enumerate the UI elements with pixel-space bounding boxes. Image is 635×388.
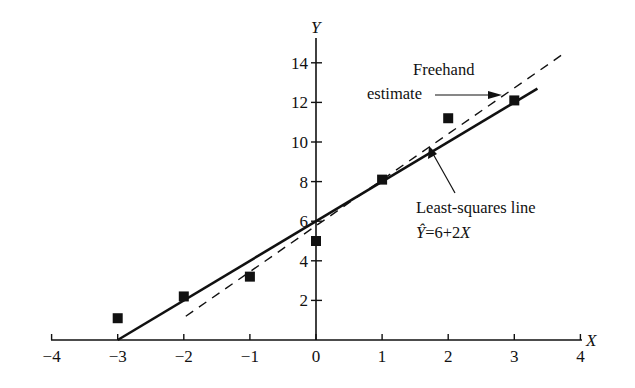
x-tick-label: −1: [241, 347, 259, 366]
x-tick-label: 0: [312, 347, 321, 366]
y-tick-label: 12: [291, 93, 308, 112]
x-tick-label: 2: [444, 347, 453, 366]
freehand-annotation: Freehand estimate: [367, 60, 502, 103]
y-axis-ticks: 2468101214: [291, 54, 322, 311]
y-tick-label: 10: [291, 133, 308, 152]
data-point-square-icon: [509, 95, 519, 105]
x-tick-label: −3: [109, 347, 127, 366]
ls-label-line1: Least-squares line: [416, 198, 536, 217]
data-point-square-icon: [377, 175, 387, 185]
data-point-square-icon: [311, 236, 321, 246]
data-point-square-icon: [113, 313, 123, 323]
data-point-square-icon: [245, 272, 255, 282]
least-squares-annotation: Least-squares line Ŷ=6+2X: [416, 146, 536, 242]
freehand-arrow-head-icon: [488, 91, 502, 99]
y-tick-label: 8: [300, 173, 309, 192]
x-tick-label: 1: [378, 347, 387, 366]
freehand-label-line1: Freehand: [413, 60, 475, 79]
y-tick-label: 2: [300, 291, 309, 310]
freehand-label-line2: estimate: [367, 84, 422, 103]
ls-equation: Ŷ=6+2X: [416, 223, 471, 242]
ls-arrow-head-icon: [428, 146, 437, 159]
data-point-square-icon: [443, 113, 453, 123]
x-tick-label: −4: [43, 347, 62, 366]
y-axis: 2468101214 Y: [291, 18, 322, 340]
chart-canvas: −4−3−2−101234 X 2468101214 Y Freehand es…: [0, 0, 635, 388]
ls-arrow-shaft: [432, 152, 455, 193]
data-point-square-icon: [179, 291, 189, 301]
y-axis-title: Y: [311, 18, 322, 37]
y-tick-label: 14: [291, 54, 309, 73]
x-axis-ticks: −4−3−2−101234: [43, 334, 586, 366]
y-tick-label: 4: [300, 252, 309, 271]
x-tick-label: −2: [175, 347, 193, 366]
x-tick-label: 4: [576, 347, 585, 366]
ls-equation-body: =6+2: [425, 223, 460, 242]
x-tick-label: 3: [510, 347, 519, 366]
ls-equation-x: X: [459, 223, 471, 242]
x-axis-title: X: [585, 331, 597, 350]
